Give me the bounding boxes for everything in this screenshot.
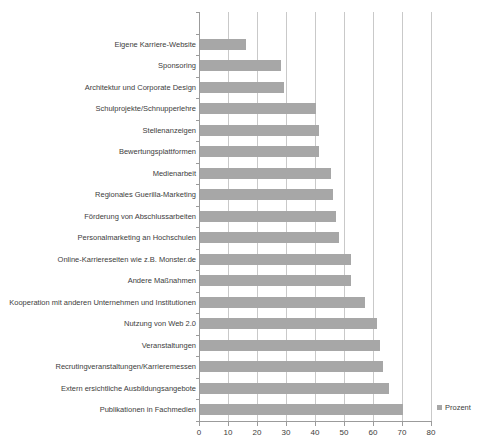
y-axis-tick xyxy=(196,270,200,271)
gridline xyxy=(402,12,403,421)
gridline xyxy=(344,12,345,421)
y-axis-tick xyxy=(196,227,200,228)
y-axis-tick xyxy=(196,55,200,56)
bar xyxy=(200,297,365,308)
bar xyxy=(200,254,351,265)
category-label: Medienarbeit xyxy=(0,168,196,179)
x-axis-tick xyxy=(431,422,432,426)
gridline xyxy=(373,12,374,421)
y-axis-tick xyxy=(196,163,200,164)
x-tick-label: 20 xyxy=(246,428,268,437)
category-label: Extern ersichtliche Ausbildungsangebote xyxy=(0,383,196,394)
bar xyxy=(200,275,351,286)
y-axis-tick xyxy=(196,335,200,336)
category-label: Personalmarketing an Hochschulen xyxy=(0,232,196,243)
category-label: Publikationen in Fachmedien xyxy=(0,404,196,415)
category-label: Schulprojekte/Schnupperlehre xyxy=(0,103,196,114)
x-tick-label: 10 xyxy=(217,428,239,437)
bar xyxy=(200,60,281,71)
x-axis-tick xyxy=(286,422,287,426)
category-label: Kooperation mit anderen Unternehmen und … xyxy=(0,297,196,308)
legend-label: Prozent xyxy=(445,403,471,412)
x-tick-label: 30 xyxy=(275,428,297,437)
x-tick-label: 60 xyxy=(362,428,384,437)
category-label: Bewertungsplattformen xyxy=(0,146,196,157)
x-axis-tick xyxy=(199,422,200,426)
category-label: Nutzung von Web 2.0 xyxy=(0,318,196,329)
y-axis-tick xyxy=(196,206,200,207)
x-axis-tick xyxy=(228,422,229,426)
y-axis-tick xyxy=(196,292,200,293)
bar xyxy=(200,103,316,114)
y-axis-tick xyxy=(196,141,200,142)
category-label: Sponsoring xyxy=(0,60,196,71)
y-axis-tick xyxy=(196,12,200,13)
category-label: Stellenanzeigen xyxy=(0,125,196,136)
y-axis-tick xyxy=(196,120,200,121)
y-axis xyxy=(199,12,200,422)
x-tick-label: 50 xyxy=(333,428,355,437)
y-axis-tick xyxy=(196,34,200,35)
bar xyxy=(200,383,389,394)
bar xyxy=(200,189,333,200)
bar xyxy=(200,361,383,372)
category-label: Veranstaltungen xyxy=(0,340,196,351)
category-label: Architektur und Corporate Design xyxy=(0,82,196,93)
x-axis-tick xyxy=(315,422,316,426)
x-axis-tick xyxy=(344,422,345,426)
bar xyxy=(200,168,331,179)
bar xyxy=(200,39,246,50)
category-label: Eigene Karriere-Website xyxy=(0,39,196,50)
bar xyxy=(200,232,339,243)
bar xyxy=(200,82,284,93)
y-axis-tick xyxy=(196,184,200,185)
category-label: Förderung von Abschlussarbeiten xyxy=(0,211,196,222)
x-tick-label: 70 xyxy=(391,428,413,437)
legend-swatch-icon xyxy=(437,405,442,410)
category-label: Online-Karriereseiten wie z.B. Monster.d… xyxy=(0,254,196,265)
bar xyxy=(200,211,336,222)
category-label: Andere Maßnahmen xyxy=(0,275,196,286)
legend: Prozent xyxy=(437,403,471,412)
bar xyxy=(200,146,319,157)
x-tick-label: 40 xyxy=(304,428,326,437)
y-axis-tick xyxy=(196,378,200,379)
x-axis-tick xyxy=(373,422,374,426)
category-label: Recrutingveranstaltungen/Karrieremessen xyxy=(0,361,196,372)
x-axis-tick xyxy=(257,422,258,426)
bar-chart: Eigene Karriere-WebsiteSponsoringArchite… xyxy=(0,0,479,444)
bar xyxy=(200,318,377,329)
bar xyxy=(200,340,380,351)
y-axis-tick xyxy=(196,313,200,314)
bar xyxy=(200,125,319,136)
y-axis-tick xyxy=(196,77,200,78)
bar xyxy=(200,404,403,415)
category-label: Regionales Guerilla-Marketing xyxy=(0,189,196,200)
x-tick-label: 0 xyxy=(188,428,210,437)
x-axis-tick xyxy=(402,422,403,426)
y-axis-tick xyxy=(196,249,200,250)
y-axis-tick xyxy=(196,356,200,357)
y-axis-tick xyxy=(196,98,200,99)
y-axis-tick xyxy=(196,399,200,400)
gridline xyxy=(431,12,432,421)
x-tick-label: 80 xyxy=(420,428,442,437)
